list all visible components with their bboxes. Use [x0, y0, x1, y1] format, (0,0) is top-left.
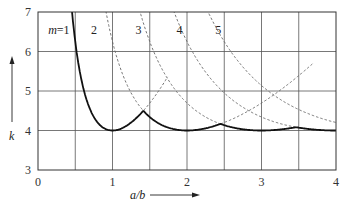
curve-group	[69, 0, 336, 130]
y-axis-label-group: k	[9, 56, 15, 143]
y-arrowhead-icon	[10, 56, 15, 64]
dashed-curve-m4	[171, 2, 296, 127]
envelope-curve	[69, 0, 336, 130]
grid-lines	[38, 12, 336, 170]
y-tick-label: 4	[25, 124, 31, 138]
y-axis-label: k	[9, 129, 15, 143]
curves	[69, 0, 336, 130]
y-tick-label: 7	[25, 5, 31, 19]
x-tick-label: 4	[333, 175, 339, 189]
buckling-coefficient-chart: 0123434567 m=12345 k a/b	[0, 0, 340, 207]
x-axis-label-group: a/b	[130, 188, 200, 202]
x-axis-label: a/b	[130, 188, 145, 202]
dashed-curve-m5	[203, 1, 336, 122]
x-arrowhead-icon	[192, 193, 200, 198]
mode-label-m2: 2	[91, 23, 97, 37]
dashed-curve-m2	[221, 63, 314, 124]
y-tick-label: 3	[25, 163, 31, 177]
dashed-curve-m2	[104, 2, 143, 110]
x-tick-label: 3	[259, 175, 265, 189]
mode-label-m1: m=1	[48, 23, 69, 37]
dashed-curve-m1	[144, 77, 168, 110]
y-tick-label: 5	[25, 84, 31, 98]
mode-label-m4: 4	[177, 23, 183, 37]
mode-label-m3: 3	[136, 23, 142, 37]
x-tick-label: 1	[110, 175, 116, 189]
mode-label-m5: 5	[215, 23, 221, 37]
x-tick-label: 2	[184, 175, 190, 189]
y-tick-label: 6	[25, 45, 31, 59]
x-tick-label: 0	[35, 175, 41, 189]
